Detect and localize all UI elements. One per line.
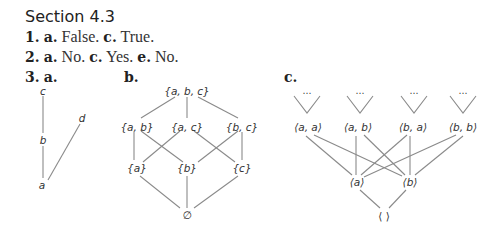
node-b: {b}	[177, 162, 197, 174]
node-c: c	[40, 85, 46, 97]
node-ba: ⟨b, a⟩	[399, 121, 427, 133]
node-bb: ⟨b, b⟩	[449, 121, 477, 133]
node-b: b	[40, 134, 47, 146]
ellipsis: ⋯	[356, 88, 365, 98]
node-a: ⟨a⟩	[350, 176, 365, 188]
node-a: {a}	[127, 162, 147, 174]
node-abc: {a, b, c}	[164, 85, 210, 97]
node-aa: ⟨a, a⟩	[294, 121, 322, 133]
diagram-a: c b d a	[39, 85, 86, 191]
ellipsis: ⋯	[459, 88, 468, 98]
node-bc: {b, c}	[226, 121, 258, 133]
node-d: d	[79, 112, 86, 124]
ellipsis: ⋯	[410, 88, 419, 98]
node-ab: {a, b}	[120, 121, 153, 133]
hasse-diagrams: c b d a {a, b, c} {a, b} {a, c} {b, c} {…	[0, 0, 494, 239]
node-ab: ⟨a, b⟩	[344, 121, 372, 133]
node-ac: {a, c}	[171, 121, 203, 133]
node-empty: ∅	[182, 209, 191, 221]
node-b: ⟨b⟩	[403, 176, 418, 188]
diagram-c: ⋯ ⋯ ⋯ ⋯ ⟨a, a⟩ ⟨a, b⟩ ⟨b, a⟩ ⟨b, b⟩ ⟨a⟩ …	[294, 88, 477, 222]
node-c: {c}	[232, 162, 251, 174]
ellipsis: ⋯	[303, 88, 312, 98]
node-empty: ⟨ ⟩	[378, 210, 390, 222]
diagram-b: {a, b, c} {a, b} {a, c} {b, c} {a} {b} {…	[120, 85, 258, 221]
node-a: a	[39, 179, 45, 191]
